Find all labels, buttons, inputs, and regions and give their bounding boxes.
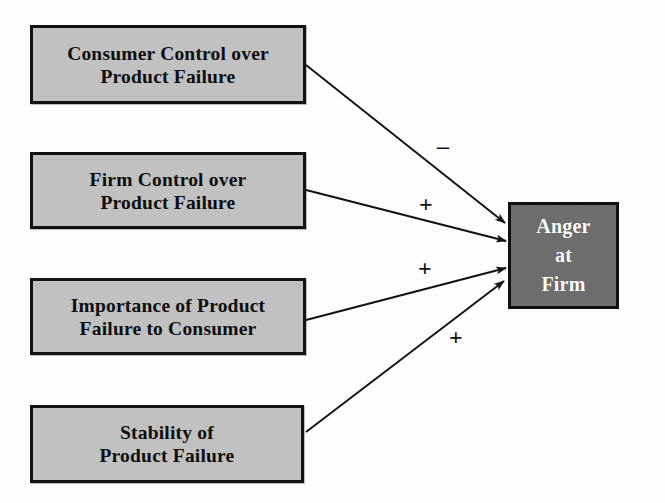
link-importance-to-anger	[306, 268, 506, 320]
node-importance-of-product-failure[interactable]: Importance of Product Failure to Consume…	[30, 278, 306, 355]
diagram-canvas: Consumer Control over Product Failure Fi…	[0, 0, 665, 503]
link-sign-consumer-control: –	[437, 134, 449, 158]
node-stability-label: Stability of Product Failure	[33, 421, 301, 467]
node-firm-control-label: Firm Control over Product Failure	[33, 168, 303, 214]
link-sign-importance: +	[418, 256, 432, 280]
node-consumer-control[interactable]: Consumer Control over Product Failure	[30, 25, 306, 104]
node-stability[interactable]: Stability of Product Failure	[30, 405, 304, 483]
node-firm-control[interactable]: Firm Control over Product Failure	[30, 152, 306, 229]
link-firm-control-to-anger	[306, 190, 506, 241]
node-anger-at-firm-label: Anger at Firm	[511, 212, 616, 299]
node-consumer-control-label: Consumer Control over Product Failure	[33, 42, 303, 88]
link-sign-firm-control: +	[419, 192, 433, 216]
node-anger-at-firm[interactable]: Anger at Firm	[508, 202, 619, 309]
link-sign-stability: +	[449, 325, 463, 349]
node-importance-label: Importance of Product Failure to Consume…	[33, 294, 303, 340]
link-stability-to-anger	[306, 281, 504, 432]
link-consumer-control-to-anger	[306, 65, 505, 223]
